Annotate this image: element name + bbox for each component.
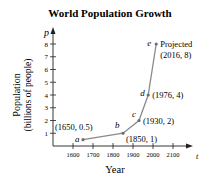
y-axis-label-line2: (billions of people) bbox=[23, 59, 34, 132]
point-annotation-d: (1976, 4) bbox=[152, 90, 183, 100]
y-axis-label: Population (billions of people) bbox=[11, 59, 34, 132]
y-axis-arrow-icon bbox=[51, 27, 56, 34]
data-point-b bbox=[121, 132, 124, 135]
x-tick-label: 1600 bbox=[67, 151, 80, 158]
population-chart: World Population Growth Population (bill… bbox=[0, 0, 212, 182]
data-point-c bbox=[137, 119, 140, 122]
point-annotation-b: (1850, 1) bbox=[126, 134, 157, 144]
x-axis-variable: t bbox=[196, 152, 199, 161]
y-tick-label: 8 bbox=[45, 41, 49, 49]
x-tick-label: 1800 bbox=[107, 151, 120, 158]
y-tick-label: 5 bbox=[45, 79, 49, 87]
point-annotation-a: (1650, 0.5) bbox=[55, 122, 93, 132]
y-tick-label: 7 bbox=[45, 53, 49, 61]
data-point-e bbox=[155, 42, 158, 45]
data-point-d bbox=[147, 93, 150, 96]
y-axis-variable: p bbox=[43, 27, 49, 38]
y-tick-label: 3 bbox=[45, 104, 49, 112]
data-series: a(1650, 0.5)b(1850, 1)c(1930, 2)d(1976, … bbox=[55, 38, 193, 144]
x-tick-label: 2100 bbox=[167, 151, 180, 158]
y-tick-label: 1 bbox=[45, 130, 49, 138]
x-tick-label: 1900 bbox=[127, 151, 140, 158]
chart-title: World Population Growth bbox=[48, 7, 171, 19]
y-tick-label: 2 bbox=[45, 117, 49, 125]
point-letter-a: a bbox=[75, 134, 80, 144]
x-axis-label: Year bbox=[105, 164, 125, 175]
point-letter-e: e bbox=[147, 38, 151, 48]
x-tick-label: 1700 bbox=[87, 151, 100, 158]
point-annotation-c: (1930, 2) bbox=[143, 116, 174, 126]
x-tick-label: 2000 bbox=[147, 151, 160, 158]
projected-note: Projected bbox=[160, 39, 193, 49]
data-point-a bbox=[81, 138, 84, 141]
point-letter-d: d bbox=[140, 88, 145, 98]
y-axis-label-line1: Population bbox=[11, 73, 22, 116]
y-tick-label: 4 bbox=[45, 92, 49, 100]
point-letter-b: b bbox=[115, 120, 120, 130]
point-letter-c: c bbox=[132, 109, 136, 119]
point-annotation-e: (2016, 8) bbox=[160, 50, 191, 60]
y-tick-label: 6 bbox=[45, 66, 49, 74]
x-axis-arrow-icon bbox=[186, 144, 193, 149]
